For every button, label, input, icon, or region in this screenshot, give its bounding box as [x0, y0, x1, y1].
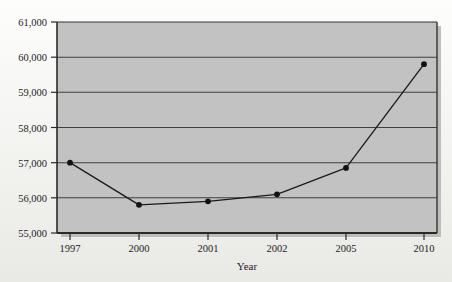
- data-point-2000: [136, 202, 142, 208]
- x-axis-label-2000: 2000: [129, 243, 150, 254]
- data-point-2002: [274, 191, 280, 197]
- x-axis-label-2001: 2001: [198, 243, 219, 254]
- x-axis-label-2005: 2005: [336, 243, 357, 254]
- data-point-1997: [67, 160, 73, 166]
- y-axis-label-61000: 61,000: [18, 17, 47, 28]
- line-chart-figure: 61,000 60,000 59,000 58,000 57,000 56,00…: [0, 0, 452, 282]
- chart-canvas: 61,000 60,000 59,000 58,000 57,000 56,00…: [0, 0, 452, 282]
- y-axis-label-55000: 55,000: [18, 228, 47, 239]
- y-axis-label-57000: 57,000: [18, 158, 47, 169]
- y-axis-label-58000: 58,000: [18, 123, 47, 134]
- x-axis-label-2002: 2002: [267, 243, 288, 254]
- x-axis-label-1997: 1997: [60, 243, 81, 254]
- data-point-2005: [343, 165, 349, 171]
- y-axis-ticks: [51, 22, 57, 233]
- y-axis-label-56000: 56,000: [18, 193, 47, 204]
- y-axis-label-60000: 60,000: [18, 52, 47, 63]
- data-point-2001: [205, 198, 211, 204]
- y-axis-label-59000: 59,000: [18, 87, 47, 98]
- data-point-2010: [421, 61, 427, 67]
- x-axis-label-2010: 2010: [414, 243, 435, 254]
- x-axis-title: Year: [237, 260, 258, 272]
